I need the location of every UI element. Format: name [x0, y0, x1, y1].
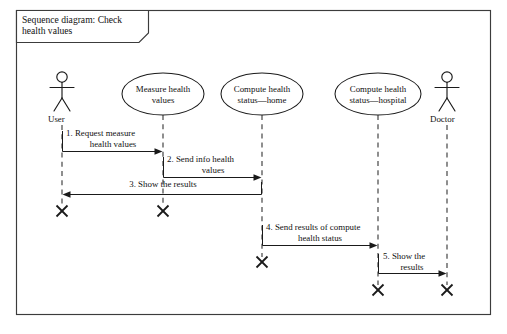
message-2-label-line-2: values: [202, 165, 225, 175]
user-actor-leg-right: [62, 98, 70, 111]
user-actor-label: User: [48, 114, 65, 124]
compute-health-status-hospital-label-line-2: status—hospital: [349, 95, 407, 105]
compute-health-status-hospital-label-line-1: Compute health: [350, 84, 407, 94]
doctor-actor-head-icon: [442, 72, 452, 82]
measure-health-values-label-line-2: values: [152, 95, 175, 105]
message-1[interactable]: 1. Request measure health values: [63, 128, 163, 155]
doctor-actor-label: Doctor: [430, 114, 455, 124]
terminator-compute-health-status-home: [257, 257, 268, 268]
lifeline-doctor[interactable]: Doctor: [430, 72, 459, 285]
message-5-label-line-2: results: [400, 262, 424, 272]
message-3-label-line-1: 3. Show the results: [129, 179, 197, 189]
message-3[interactable]: 3. Show the results: [63, 179, 262, 198]
sequence-diagram-svg: Sequence diagram: Check health values Us…: [0, 0, 507, 334]
message-5-arrowhead-icon: [439, 270, 447, 277]
message-3-arrowhead-icon: [63, 191, 71, 198]
user-actor-head-icon: [57, 72, 67, 82]
message-1-label-line-1: 1. Request measure: [66, 128, 135, 138]
terminator-doctor: [442, 285, 453, 296]
message-5-label-line-1: 5. Show the: [383, 251, 425, 261]
frame-title-line-2: health values: [22, 25, 73, 36]
user-actor-leg-left: [54, 98, 62, 111]
message-4-arrowhead-icon: [370, 242, 378, 249]
lifeline-user[interactable]: User: [48, 72, 74, 206]
message-2-label-line-1: 2. Send info health: [167, 154, 235, 164]
measure-health-values-label-line-1: Measure health: [136, 84, 191, 94]
message-4-label-line-1: 4. Send results of compute: [266, 222, 360, 232]
measure-health-values-ellipse: [122, 73, 204, 115]
doctor-actor-leg-left: [439, 98, 447, 111]
message-4[interactable]: 4. Send results of compute health status: [263, 222, 378, 249]
terminator-compute-health-status-hospital: [373, 285, 384, 296]
compute-health-status-home-ellipse: [221, 73, 303, 115]
compute-health-status-home-label-line-2: status—home: [238, 95, 287, 105]
message-5[interactable]: 5. Show the results: [379, 251, 447, 277]
sequence-diagram-canvas: Sequence diagram: Check health values Us…: [0, 0, 507, 334]
doctor-actor-leg-right: [447, 98, 455, 111]
message-2[interactable]: 2. Send info health values: [164, 154, 262, 181]
message-4-label-line-2: health status: [298, 233, 343, 243]
terminator-measure-health-values: [158, 206, 169, 217]
message-2-arrowhead-icon: [254, 174, 262, 181]
frame-title-line-1: Sequence diagram: Check: [22, 14, 122, 25]
message-1-label-line-2: health values: [90, 139, 137, 149]
message-1-arrowhead-icon: [155, 148, 163, 155]
compute-health-status-hospital-ellipse: [335, 73, 421, 115]
terminator-user: [57, 206, 68, 217]
compute-health-status-home-label-line-1: Compute health: [234, 84, 291, 94]
